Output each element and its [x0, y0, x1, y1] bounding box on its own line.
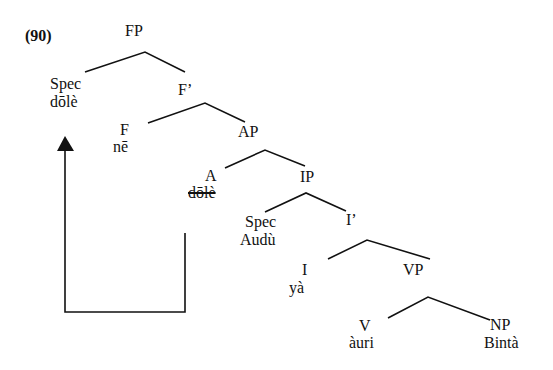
word-v: àuri — [349, 334, 374, 352]
word-a-trace: dōlè — [188, 184, 216, 202]
word-spec-fp: dōlè — [50, 93, 78, 111]
branch-ip — [265, 193, 346, 212]
arrowhead-icon — [57, 136, 74, 151]
node-f: F — [120, 121, 129, 139]
branch-vp — [388, 297, 490, 320]
word-f: nē — [113, 138, 128, 156]
example-number: (90) — [25, 27, 52, 45]
node-fbar: F’ — [178, 81, 192, 99]
tree-branches — [0, 0, 553, 370]
node-a: A — [205, 167, 217, 185]
node-fp: FP — [125, 22, 143, 40]
branch-fbar — [148, 103, 245, 123]
node-np: NP — [490, 316, 510, 334]
node-ap: AP — [238, 123, 258, 141]
node-i: I — [302, 261, 307, 279]
movement-arrow-line — [65, 150, 185, 312]
word-np: Bintà — [484, 334, 519, 352]
node-ibar: I’ — [346, 211, 357, 229]
node-spec-ip: Spec — [245, 213, 276, 231]
branch-ap — [225, 150, 305, 168]
node-spec-fp: Spec — [50, 75, 81, 93]
branch-ibar — [328, 240, 430, 259]
word-i: yà — [289, 279, 304, 297]
node-v: V — [359, 317, 371, 335]
word-spec-ip: Audù — [240, 231, 276, 249]
node-vp: VP — [403, 261, 423, 279]
node-ip: IP — [300, 168, 314, 186]
branch-fp — [85, 52, 185, 72]
